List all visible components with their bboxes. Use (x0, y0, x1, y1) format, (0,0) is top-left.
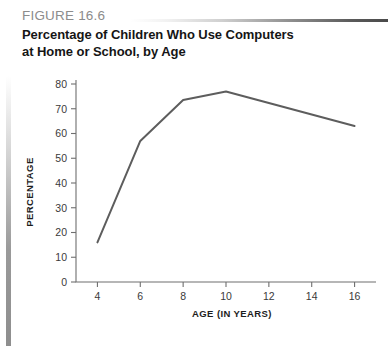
x-tick-label: 10 (220, 290, 232, 302)
x-tick-label: 6 (137, 290, 143, 302)
y-tick-label: 10 (55, 251, 67, 263)
y-tick-label: 80 (55, 78, 67, 90)
y-tick-label: 40 (55, 177, 67, 189)
figure-title-line-2: at Home or School, by Age (22, 44, 372, 61)
y-tick-label: 20 (55, 226, 67, 238)
x-axis-tick-labels: 46810121416 (95, 290, 361, 302)
y-tick-label: 70 (55, 103, 67, 115)
x-axis-tick-marks (97, 282, 354, 287)
chart-axes (76, 80, 376, 282)
x-tick-label: 12 (263, 290, 275, 302)
figure-header: FIGURE 16.6 Percentage of Children Who U… (22, 8, 372, 60)
x-tick-label: 16 (349, 290, 361, 302)
y-tick-label: 30 (55, 202, 67, 214)
line-chart-svg: 01020304050607080 46810121416 AGE (IN YE… (0, 72, 388, 346)
y-axis-title: PERCENTAGE (24, 157, 35, 226)
y-axis-tick-labels: 01020304050607080 (55, 78, 67, 288)
x-tick-label: 8 (180, 290, 186, 302)
y-tick-label: 0 (61, 276, 67, 288)
header-rule-divider (130, 19, 388, 22)
x-axis-title: AGE (IN YEARS) (192, 308, 272, 319)
chart-plot-area: 01020304050607080 46810121416 AGE (IN YE… (0, 72, 388, 346)
data-series-line (97, 91, 354, 242)
x-tick-label: 14 (306, 290, 318, 302)
y-tick-label: 60 (55, 127, 67, 139)
y-tick-label: 50 (55, 152, 67, 164)
figure-title-line-1: Percentage of Children Who Use Computers (22, 27, 372, 44)
x-tick-label: 4 (95, 290, 101, 302)
figure-title: Percentage of Children Who Use Computers… (22, 27, 372, 60)
y-axis-tick-marks (71, 84, 76, 282)
